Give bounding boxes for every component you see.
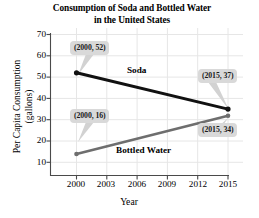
annotation-water-2015: (2015, 34) (198, 123, 237, 137)
data-point-soda-2000 (74, 70, 79, 75)
annotation-soda-2015: (2015, 37) (198, 69, 237, 83)
callout-tail-soda-2000 (78, 54, 94, 75)
series-label-soda: Soda (127, 65, 146, 75)
x-axis (50, 176, 229, 180)
data-point-soda-2015 (225, 107, 230, 112)
data-point-water-2015 (226, 113, 231, 118)
y-axis (47, 33, 51, 176)
plot-area (0, 0, 259, 218)
callout-tail-water-2000 (78, 122, 94, 142)
series-label-bottled-water: Bottled Water (116, 145, 171, 155)
annotation-water-2000: (2000, 16) (70, 109, 109, 123)
data-point-water-2000 (74, 152, 79, 157)
annotation-soda-2000: (2000, 52) (70, 41, 109, 55)
chart-figure: Consumption of Soda and Bottled Water in… (0, 0, 259, 218)
